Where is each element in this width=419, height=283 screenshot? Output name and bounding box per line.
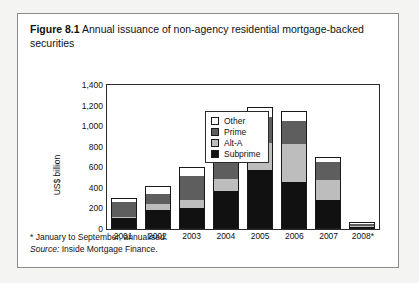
source-line: Source: Inside Mortgage Finance. xyxy=(30,243,167,255)
bar-segment-other xyxy=(146,187,170,194)
bar-slot xyxy=(141,85,175,229)
bar-segment-prime xyxy=(146,194,170,205)
stacked-bar[interactable] xyxy=(281,111,307,229)
y-tick-200: 200 xyxy=(89,203,107,213)
bar-segment-subprime xyxy=(112,218,136,228)
chart-area: US$ billion 1,400 1,200 1,000 800 600 40… xyxy=(18,62,400,237)
bar-slot xyxy=(277,85,311,229)
x-label-2005: 2005 xyxy=(243,231,277,241)
y-tick-1200: 1,200 xyxy=(82,101,107,111)
legend-label-prime: Prime xyxy=(224,127,246,137)
bar-segment-alt-a xyxy=(180,200,204,208)
bar-segment-prime xyxy=(282,121,306,145)
legend-item-subprime: Subprime xyxy=(211,148,260,159)
x-label-2003: 2003 xyxy=(175,231,209,241)
bar-segment-prime xyxy=(112,202,136,216)
y-tick-1400: 1,400 xyxy=(82,80,107,90)
y-axis-title: US$ billion xyxy=(52,130,62,220)
legend-item-prime: Prime xyxy=(211,126,260,137)
legend-swatch-other-icon xyxy=(211,117,219,125)
x-label-2004: 2004 xyxy=(209,231,243,241)
legend-label-subprime: Subprime xyxy=(224,149,260,159)
stacked-bar[interactable] xyxy=(111,198,137,229)
y-tick-1000: 1,000 xyxy=(82,121,107,131)
bar-segment-alt-a xyxy=(316,180,340,200)
bar-segment-subprime xyxy=(214,191,238,228)
bar-segment-alt-a xyxy=(282,144,306,182)
figure-container: Figure 8.1 Annual issuance of non-agency… xyxy=(17,13,399,268)
bar-segment-subprime xyxy=(248,170,272,228)
plot-frame: 1,400 1,200 1,000 800 600 400 200 0 Othe… xyxy=(106,84,380,230)
legend-swatch-prime-icon xyxy=(211,128,219,136)
bar-segment-subprime xyxy=(316,200,340,228)
y-tick-400: 400 xyxy=(89,183,107,193)
bar-slot xyxy=(107,85,141,229)
stacked-bar[interactable] xyxy=(349,222,375,229)
source-label: Source: xyxy=(30,244,59,254)
legend-label-alt-a: Alt-A xyxy=(224,138,242,148)
bar-segment-subprime xyxy=(282,182,306,228)
bar-segment-subprime xyxy=(180,208,204,228)
bar-segment-other xyxy=(180,168,204,176)
legend-item-other: Other xyxy=(211,115,260,126)
bar-segment-other xyxy=(282,112,306,121)
footnote-annualised: * January to September, annualised. xyxy=(30,231,167,243)
source-value: Inside Mortgage Finance. xyxy=(62,244,158,254)
bar-segment-subprime xyxy=(146,210,170,228)
legend-label-other: Other xyxy=(224,116,245,126)
bar-segment-prime xyxy=(316,162,340,180)
legend-item-alt-a: Alt-A xyxy=(211,137,260,148)
x-label-2008: 2008* xyxy=(346,231,380,241)
figure-notes: * January to September, annualised. Sour… xyxy=(30,231,167,255)
bar-slot xyxy=(311,85,345,229)
stacked-bar[interactable] xyxy=(315,157,341,229)
bar-segment-prime xyxy=(180,176,204,201)
y-tick-600: 600 xyxy=(89,162,107,172)
bar-segment-alt-a xyxy=(214,179,238,191)
legend-swatch-alt-a-icon xyxy=(211,139,219,147)
x-label-2006: 2006 xyxy=(277,231,311,241)
y-tick-800: 800 xyxy=(89,142,107,152)
chart-legend: Other Prime Alt-A Subprime xyxy=(205,111,269,163)
figure-number: Figure 8.1 xyxy=(30,23,80,35)
stacked-bar[interactable] xyxy=(179,167,205,229)
x-label-2007: 2007 xyxy=(312,231,346,241)
stacked-bar[interactable] xyxy=(145,186,171,229)
bar-slot xyxy=(175,85,209,229)
bar-slot xyxy=(345,85,379,229)
figure-title-text: Annual issuance of non-agency residentia… xyxy=(30,23,364,49)
legend-swatch-subprime-icon xyxy=(211,150,219,158)
figure-title: Figure 8.1 Annual issuance of non-agency… xyxy=(30,23,382,50)
bar-segment-subprime xyxy=(350,227,374,228)
